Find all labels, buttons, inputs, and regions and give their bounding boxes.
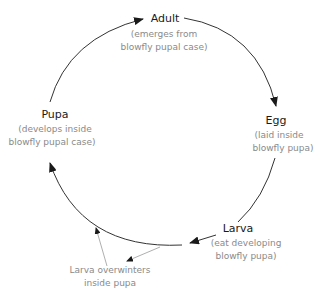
stage-adult-desc-1: (emerges from <box>131 29 198 39</box>
note-arrow-up <box>96 228 107 266</box>
arrow-egg-to-larva <box>238 158 275 222</box>
stage-pupa-title: Pupa <box>41 108 68 121</box>
arrow-pupa-to-adult <box>50 19 143 102</box>
stage-larva-title: Larva <box>223 222 254 235</box>
stage-larva-desc-2: blowfly pupa) <box>215 251 276 261</box>
stage-pupa-desc-2: blowfly pupal case) <box>8 137 95 147</box>
stage-adult-title: Adult <box>151 12 180 25</box>
arrow-adult-to-egg <box>184 18 276 106</box>
overwinter-note-1: Larva overwinters <box>69 265 150 275</box>
stage-larva-desc-1: (eat developing <box>211 238 282 248</box>
note-arrow-loop <box>127 247 160 261</box>
stage-egg-desc-1: (laid inside <box>254 130 304 140</box>
arrow-larva-to-pupa <box>50 163 182 245</box>
stage-egg-title: Egg <box>266 114 287 127</box>
overwinter-note-2: inside pupa <box>84 278 136 288</box>
stage-pupa-desc-1: (develops inside <box>18 124 92 134</box>
life-cycle-diagram: Adult (emerges from blowfly pupal case) … <box>0 0 314 298</box>
stage-egg-desc-2: blowfly pupa) <box>252 143 313 153</box>
stage-adult-desc-2: blowfly pupal case) <box>120 42 207 52</box>
